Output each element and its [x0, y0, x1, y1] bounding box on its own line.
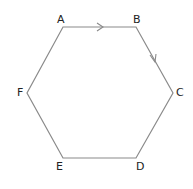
hexagon-outline — [27, 27, 173, 158]
vertex-label-b: B — [133, 14, 141, 25]
vertex-label-c: C — [176, 87, 184, 98]
vertex-label-f: F — [17, 87, 23, 98]
hexagon-diagram — [0, 0, 193, 189]
vertex-label-e: E — [56, 161, 63, 172]
vertex-label-d: D — [136, 161, 144, 172]
vertex-label-a: A — [57, 14, 65, 25]
